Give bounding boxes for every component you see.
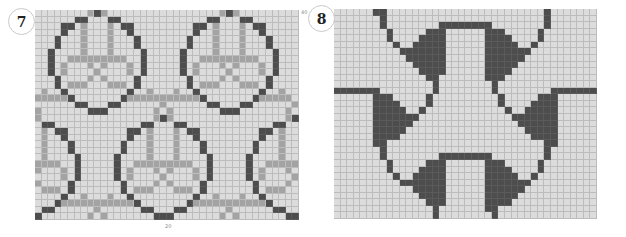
chart-cell xyxy=(233,213,240,220)
chart-cell xyxy=(127,213,134,220)
chart-cell xyxy=(160,213,167,220)
chart-cell xyxy=(48,213,55,220)
chart-cell xyxy=(114,213,121,220)
chart-cell xyxy=(154,213,161,220)
chart-cell xyxy=(512,212,519,219)
chart-cell xyxy=(94,213,101,220)
badge-chart-7: 7 xyxy=(8,8,35,35)
chart-cell xyxy=(42,213,49,220)
chart-cell xyxy=(213,213,220,220)
row-tick-label: 40 xyxy=(301,9,307,15)
chart-cell xyxy=(180,213,187,220)
chart-cell xyxy=(134,213,141,220)
chart-cell xyxy=(292,213,299,220)
chart-cell xyxy=(590,212,597,219)
chart-cell xyxy=(187,213,194,220)
chart-cell xyxy=(419,212,426,219)
chart-cell xyxy=(167,213,174,220)
chart-cell xyxy=(279,213,286,220)
chart-cell xyxy=(551,212,558,219)
chart-cell xyxy=(220,213,227,220)
chart-cell xyxy=(266,213,273,220)
chart-cell xyxy=(101,213,108,220)
chart-cell xyxy=(121,213,128,220)
chart-cell xyxy=(518,212,525,219)
knitting-chart-8 xyxy=(334,9,597,219)
chart-cell xyxy=(380,212,387,219)
chart-cell xyxy=(273,213,280,220)
chart-cell xyxy=(226,213,233,220)
chart-cell xyxy=(55,213,62,220)
chart-cell xyxy=(531,212,538,219)
chart-cell xyxy=(413,212,420,219)
chart-cell xyxy=(452,212,459,219)
chart-cell xyxy=(253,213,260,220)
chart-cell xyxy=(207,213,214,220)
chart-cell xyxy=(571,212,578,219)
chart-cell xyxy=(347,212,354,219)
chart-cell xyxy=(108,213,115,220)
chart-cell xyxy=(88,213,95,220)
chart-cell xyxy=(485,212,492,219)
chart-cell xyxy=(341,212,348,219)
chart-cell xyxy=(367,212,374,219)
chart-cell xyxy=(465,212,472,219)
chart-cell xyxy=(400,212,407,219)
chart-cell xyxy=(544,212,551,219)
chart-cell xyxy=(373,212,380,219)
chart-cell xyxy=(193,213,200,220)
badge-chart-8: 8 xyxy=(308,5,335,32)
chart-cell xyxy=(498,212,505,219)
chart-cell xyxy=(584,212,591,219)
chart-cell xyxy=(538,212,545,219)
chart-cell xyxy=(446,212,453,219)
chart-cell xyxy=(81,213,88,220)
chart-cell xyxy=(286,213,293,220)
chart-cell xyxy=(35,213,42,220)
chart-cell xyxy=(564,212,571,219)
chart-cell xyxy=(61,213,68,220)
chart-cell xyxy=(147,213,154,220)
badge-label: 7 xyxy=(17,14,27,30)
chart-cell xyxy=(174,213,181,220)
chart-cell xyxy=(246,213,253,220)
chart-cell xyxy=(75,213,82,220)
chart-cell xyxy=(141,213,148,220)
chart-cell xyxy=(406,212,413,219)
chart-cell xyxy=(387,212,394,219)
chart-cell xyxy=(200,213,207,220)
chart-cell xyxy=(354,212,361,219)
chart-cell xyxy=(472,212,479,219)
chart-cell xyxy=(433,212,440,219)
chart-cell xyxy=(68,213,75,220)
chart-cell xyxy=(505,212,512,219)
chart-cell xyxy=(479,212,486,219)
chart-cell xyxy=(259,213,266,220)
chart-cell xyxy=(240,213,247,220)
knitting-chart-7 xyxy=(35,10,299,220)
chart-cell xyxy=(577,212,584,219)
chart-cell xyxy=(439,212,446,219)
column-tick-label: 20 xyxy=(165,223,171,229)
badge-label: 8 xyxy=(317,11,327,27)
